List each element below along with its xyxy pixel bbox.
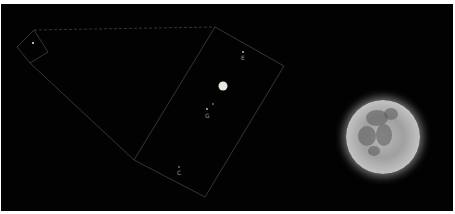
- inset-star: [32, 42, 34, 44]
- moon-label-g: G: [205, 112, 210, 119]
- moon-g-dot: [206, 108, 208, 110]
- mare: [358, 126, 376, 146]
- moon-i-dot: [212, 103, 214, 105]
- moon-e-dot: [242, 51, 244, 53]
- moon-c-dot: [178, 166, 180, 168]
- image-frame: E G C: [0, 0, 455, 214]
- connector-line-top: [34, 27, 215, 30]
- mare: [384, 108, 398, 120]
- full-moon: [346, 100, 420, 174]
- inset-box: [17, 30, 48, 63]
- jupiter: [219, 82, 228, 91]
- mare: [376, 124, 392, 146]
- mare: [368, 146, 380, 156]
- moon-label-e: E: [241, 54, 245, 61]
- moon-label-c: C: [177, 169, 181, 176]
- connector-line-bottom: [30, 63, 134, 160]
